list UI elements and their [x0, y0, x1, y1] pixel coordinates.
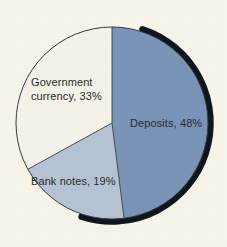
pie-chart: Deposits, 48% Bank notes, 19% Government… [0, 0, 227, 247]
slice-label-bank-notes: Bank notes, 19% [31, 175, 116, 187]
slice-label-government-currency-line1: Government [31, 76, 93, 88]
slice-label-deposits: Deposits, 48% [130, 117, 202, 129]
pie-chart-svg: Deposits, 48% Bank notes, 19% Government… [0, 0, 227, 247]
slice-label-government-currency-line2: currency, 33% [31, 90, 102, 102]
